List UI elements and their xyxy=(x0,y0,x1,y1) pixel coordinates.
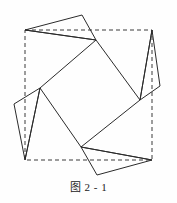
geometry-diagram xyxy=(0,0,177,203)
spoke-top-right xyxy=(140,30,152,100)
figure-container: 图 2 - 1 xyxy=(0,0,177,203)
triangle-top xyxy=(25,15,96,40)
spoke-bottom-left xyxy=(25,88,40,160)
inner-tilted-square xyxy=(40,40,140,147)
spoke-top-left xyxy=(25,30,96,40)
figure-caption: 图 2 - 1 xyxy=(0,178,177,194)
triangle-bottom xyxy=(81,147,152,175)
spoke-bottom-right xyxy=(81,147,152,160)
